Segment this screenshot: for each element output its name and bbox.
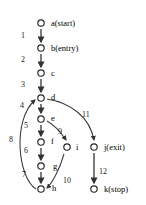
- edge-label-e2: 2: [21, 56, 25, 64]
- edge-label-e3: 3: [21, 81, 25, 89]
- edge-label-e6: 6: [24, 147, 28, 155]
- node-label-h: h: [52, 184, 56, 193]
- diagram-canvas: 123456789101112a(start)b(entry)cdefghij(…: [0, 0, 146, 205]
- node-f[interactable]: [38, 139, 44, 145]
- node-label-f: f: [51, 137, 54, 146]
- edge-label-e12: 12: [99, 168, 107, 176]
- edge-label-e5: 5: [24, 122, 28, 130]
- edge-label-e4: 4: [20, 102, 24, 110]
- node-label-i: i: [76, 143, 78, 152]
- node-label-c: c: [51, 69, 55, 78]
- node-label-k: k(stop): [104, 185, 128, 194]
- node-a[interactable]: [38, 20, 44, 26]
- edge-label-e8: 8: [9, 136, 13, 144]
- node-h[interactable]: [38, 186, 44, 192]
- node-label-b: b(entry): [51, 44, 78, 53]
- node-j[interactable]: [91, 144, 97, 150]
- node-e[interactable]: [38, 116, 44, 122]
- node-d[interactable]: [38, 95, 44, 101]
- edge-label-e10: 10: [63, 177, 71, 185]
- edge-e-to-i: [47, 121, 66, 140]
- node-c[interactable]: [38, 70, 44, 76]
- node-i[interactable]: [64, 144, 70, 150]
- node-g[interactable]: [38, 163, 44, 169]
- edge-label-e7: 7: [22, 171, 26, 179]
- edge-label-e11: 11: [82, 111, 90, 119]
- node-k[interactable]: [91, 186, 97, 192]
- node-label-a: a(start): [51, 19, 75, 28]
- node-label-d: d: [51, 93, 55, 102]
- edge-label-e1: 1: [21, 32, 25, 40]
- node-label-j: j(exit): [104, 143, 125, 152]
- edge-label-e9: 9: [58, 128, 62, 136]
- node-label-e: e: [51, 114, 55, 123]
- node-b[interactable]: [38, 45, 44, 51]
- node-label-g: g: [53, 162, 57, 171]
